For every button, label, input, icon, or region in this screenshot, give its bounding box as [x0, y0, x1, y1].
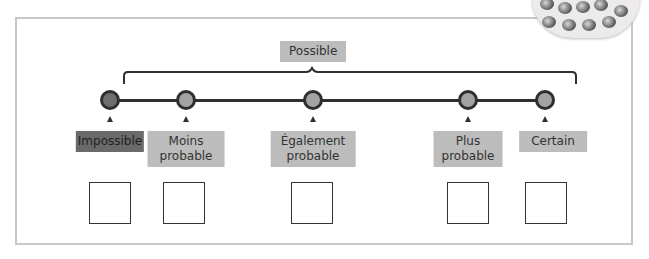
label-text: Certain	[531, 134, 575, 148]
label-plus-probable: Plus probable	[434, 131, 503, 167]
pointer-triangle-icon	[465, 116, 471, 122]
possible-brace	[120, 66, 580, 86]
label-moins-probable: Moins probable	[148, 131, 225, 167]
pill-icon	[594, 0, 608, 11]
possible-label: Possible	[280, 41, 346, 62]
answer-box-impossible[interactable]	[89, 182, 131, 224]
marker-impossible	[100, 90, 120, 110]
label-impossible: Impossible	[76, 131, 144, 152]
pill-icon	[558, 2, 572, 14]
marker-egalement-probable	[303, 90, 323, 110]
label-text: probable	[281, 149, 346, 164]
answer-box-plus-probable[interactable]	[447, 182, 489, 224]
pill-icon	[576, 1, 590, 13]
pointer-triangle-icon	[542, 116, 548, 122]
label-text: Plus	[442, 134, 495, 149]
pill-icon	[582, 19, 596, 31]
marker-moins-probable	[176, 90, 196, 110]
pill-icon	[542, 16, 556, 28]
marker-plus-probable	[458, 90, 478, 110]
label-egalement-probable: Également probable	[271, 131, 356, 167]
marker-certain	[535, 90, 555, 110]
answer-box-egalement-probable[interactable]	[291, 182, 333, 224]
pill-icon	[562, 19, 576, 31]
pointer-triangle-icon	[183, 116, 189, 122]
label-text: probable	[442, 149, 495, 164]
label-certain: Certain	[519, 131, 587, 152]
pill-icon	[614, 5, 628, 17]
pointer-triangle-icon	[107, 116, 113, 122]
label-text: Moins	[160, 134, 213, 149]
label-text: probable	[160, 149, 213, 164]
pill-icon	[602, 16, 616, 28]
pointer-triangle-icon	[310, 116, 316, 122]
pill-icon	[540, 0, 554, 10]
answer-box-moins-probable[interactable]	[163, 182, 205, 224]
answer-box-certain[interactable]	[525, 182, 567, 224]
label-text: Également	[281, 134, 346, 149]
label-text: Impossible	[78, 134, 142, 148]
